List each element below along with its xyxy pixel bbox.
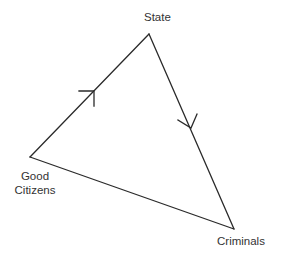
- node-label-good-citizens-line1: Good: [12, 169, 58, 183]
- edge-good-citizens-to-state: [30, 34, 149, 157]
- edge-good-citizens-to-criminals: [30, 157, 234, 229]
- node-label-state: State: [144, 10, 171, 24]
- node-label-criminals: Criminals: [217, 234, 265, 248]
- node-label-good-citizens-line2: Citizens: [12, 183, 58, 197]
- node-label-good-citizens: Good Citizens: [12, 169, 58, 197]
- triangle-diagram: [0, 0, 285, 258]
- edge-state-to-criminals: [149, 34, 234, 229]
